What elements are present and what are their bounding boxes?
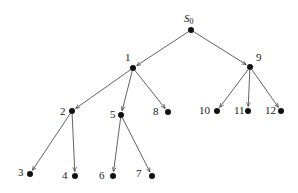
- node-12: [278, 108, 284, 114]
- node-7: [149, 173, 155, 179]
- edge-2-to-4: [72, 114, 75, 172]
- node-6: [110, 173, 116, 179]
- edge-2-to-3: [32, 113, 70, 170]
- node-S0: [188, 27, 194, 33]
- edge-1-to-5: [122, 71, 132, 111]
- node-10: [214, 108, 220, 114]
- node-label-S0: S0: [184, 12, 194, 26]
- node-label-4: 4: [62, 169, 68, 181]
- node-label-10: 10: [199, 104, 211, 116]
- node-label-6: 6: [99, 169, 105, 181]
- node-label-7: 7: [136, 167, 142, 179]
- labels-layer: S0192581011123467: [18, 12, 276, 181]
- node-label-9: 9: [256, 51, 262, 63]
- node-label-5: 5: [110, 108, 116, 120]
- edge-9-to-10: [220, 69, 249, 107]
- node-label-3: 3: [18, 166, 24, 178]
- edge-9-to-11: [248, 70, 250, 107]
- edge-S0-to-9: [194, 32, 247, 65]
- node-4: [72, 173, 78, 179]
- edges-layer: [32, 32, 278, 172]
- node-11: [245, 108, 251, 114]
- node-label-8: 8: [153, 105, 159, 117]
- edge-S0-to-1: [137, 32, 189, 66]
- node-8: [165, 109, 171, 115]
- node-label-11: 11: [234, 104, 245, 116]
- tree-diagram: S0192581011123467: [0, 0, 298, 193]
- node-9: [247, 64, 253, 70]
- edge-5-to-6: [114, 118, 121, 172]
- node-label-2: 2: [60, 105, 66, 117]
- node-label-12: 12: [265, 104, 276, 116]
- node-2: [69, 108, 75, 114]
- edge-5-to-7: [122, 118, 150, 172]
- edge-9-to-12: [252, 69, 279, 107]
- node-label-1: 1: [125, 51, 131, 63]
- node-3: [27, 171, 33, 177]
- nodes-layer: [27, 27, 284, 179]
- tree-svg: S0192581011123467: [0, 0, 298, 193]
- node-5: [118, 112, 124, 118]
- edge-1-to-2: [76, 70, 131, 109]
- node-1: [130, 65, 136, 71]
- edge-1-to-8: [135, 70, 165, 108]
